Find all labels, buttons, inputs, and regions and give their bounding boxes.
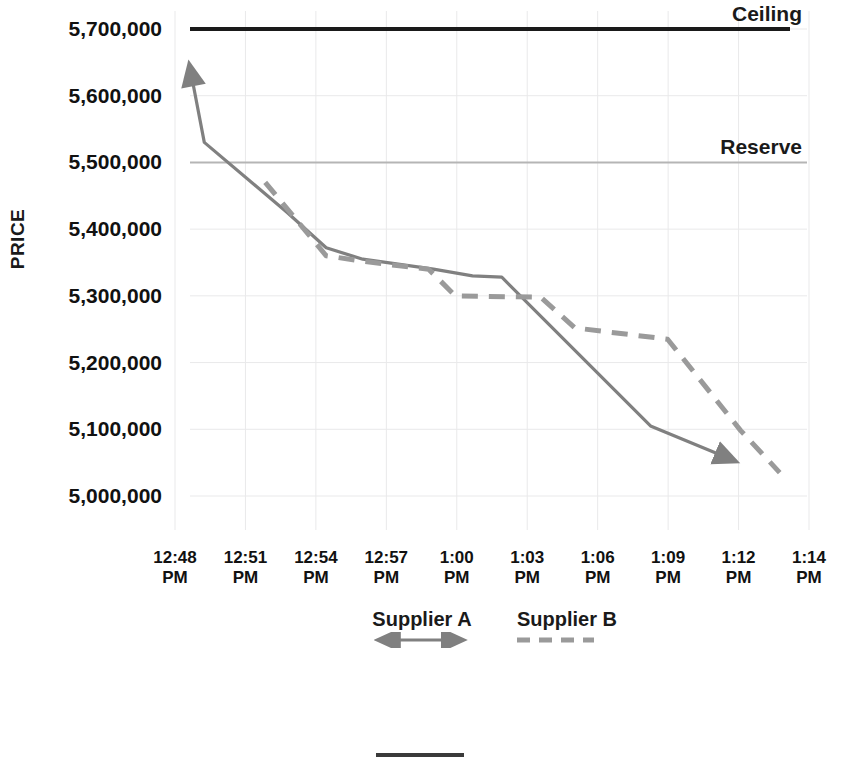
x-tick-meridiem: PM [633, 568, 703, 588]
x-tick-time: 12:51 [224, 548, 267, 567]
x-axis-tick-label: 12:48PM [140, 548, 210, 587]
x-tick-time: 1:06 [581, 548, 615, 567]
x-axis-tick-label: 12:51PM [210, 548, 280, 587]
x-tick-time: 12:48 [153, 548, 196, 567]
data-series [190, 66, 780, 473]
x-axis-tick-label: 12:54PM [281, 548, 351, 587]
x-tick-meridiem: PM [281, 568, 351, 588]
x-axis-tick-label: 1:03PM [492, 548, 562, 587]
x-tick-meridiem: PM [492, 568, 562, 588]
x-axis-tick-label: 1:14PM [774, 548, 843, 587]
x-tick-time: 12:54 [294, 548, 337, 567]
x-tick-time: 1:14 [792, 548, 826, 567]
legend-item-supplier-a[interactable]: Supplier A [363, 608, 481, 648]
ceiling-label: Ceiling [732, 2, 802, 26]
x-tick-meridiem: PM [140, 568, 210, 588]
x-tick-meridiem: PM [563, 568, 633, 588]
x-axis-tick-label: 1:06PM [563, 548, 633, 587]
legend-marker-swatch [508, 632, 626, 648]
series-line-supplier-a [190, 66, 736, 462]
x-axis-tick-label: 1:12PM [704, 548, 774, 587]
x-tick-meridiem: PM [210, 568, 280, 588]
bottom-legend-marker [0, 742, 843, 759]
legend-item-supplier-b[interactable]: Supplier B [508, 608, 626, 648]
x-tick-time: 1:09 [651, 548, 685, 567]
legend-marker-swatch [363, 632, 481, 648]
x-tick-time: 1:12 [722, 548, 756, 567]
legend-label: Supplier B [508, 608, 626, 630]
chart-screenshot: PRICE 5,700,0005,600,0005,500,0005,400,0… [0, 0, 843, 759]
chart-legend: Supplier ASupplier B [0, 608, 843, 654]
x-tick-meridiem: PM [351, 568, 421, 588]
reserve-label: Reserve [720, 135, 802, 159]
x-tick-meridiem: PM [774, 568, 843, 588]
x-tick-time: 1:03 [510, 548, 544, 567]
x-axis-tick-label: 1:09PM [633, 548, 703, 587]
x-axis-tick-label: 1:00PM [422, 548, 492, 587]
legend-label: Supplier A [363, 608, 481, 630]
x-tick-meridiem: PM [704, 568, 774, 588]
x-axis-tick-label: 12:57PM [351, 548, 421, 587]
x-tick-meridiem: PM [422, 568, 492, 588]
plot-area [0, 0, 843, 540]
x-tick-time: 12:57 [365, 548, 408, 567]
x-tick-time: 1:00 [440, 548, 474, 567]
